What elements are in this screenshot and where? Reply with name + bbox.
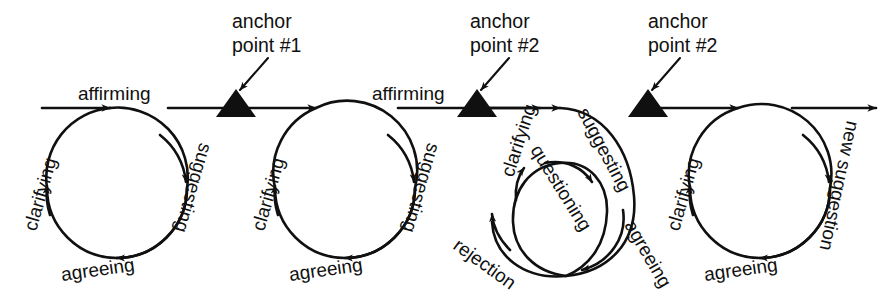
segment-label-affirming-2: affirming xyxy=(372,83,445,104)
anchor-label-line2: point #2 xyxy=(648,34,717,56)
segment-label-affirming-1: affirming xyxy=(78,83,151,104)
anchor-label-line2: point #1 xyxy=(232,34,301,56)
anchor-label-line1: anchor xyxy=(648,10,708,32)
anchor-label-line1: anchor xyxy=(232,10,292,32)
anchor-label-line1: anchor xyxy=(470,10,530,32)
conversation-flow-diagram: anchor point #1 anchor point #2 anchor p… xyxy=(0,0,881,307)
anchor-label-line2: point #2 xyxy=(470,34,539,56)
